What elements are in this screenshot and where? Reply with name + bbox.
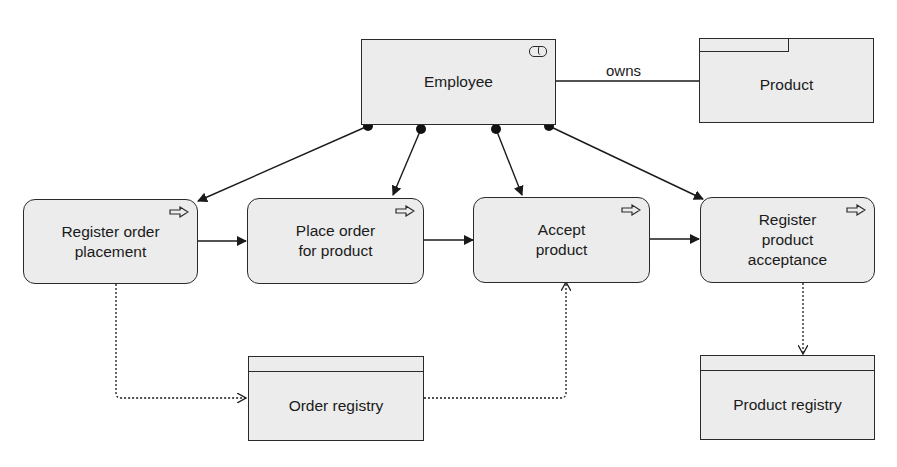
register-acceptance-label: Register product acceptance [748,210,827,270]
process-arrow-icon [846,204,866,216]
product-tab [700,39,789,52]
object-header-band [701,356,874,371]
register-order-label: Register order placement [61,222,159,262]
order-registry-label: Order registry [289,396,384,416]
product-node[interactable]: Product [699,38,874,123]
product-registry-label: Product registry [733,395,842,415]
employee-role-node[interactable]: Employee [361,39,556,125]
place-order-process-node[interactable]: Place order for product [247,198,424,284]
place-order-label: Place order for product [296,221,375,261]
process-arrow-icon [621,204,641,216]
accept-product-process-node[interactable]: Accept product [473,197,650,283]
register-acceptance-process-node[interactable]: Register product acceptance [700,197,875,283]
process-arrow-icon [169,206,189,218]
object-header-band [249,357,423,372]
accept-product-label: Accept product [536,220,588,260]
order-registry-node[interactable]: Order registry [248,356,424,441]
edge-assignments [198,126,703,201]
employee-label: Employee [424,72,493,92]
process-arrow-icon [395,205,415,217]
register-order-process-node[interactable]: Register order placement [23,199,198,284]
product-registry-node[interactable]: Product registry [700,355,875,440]
owns-label: owns [606,62,641,79]
role-icon [529,46,547,57]
product-label: Product [760,75,813,95]
